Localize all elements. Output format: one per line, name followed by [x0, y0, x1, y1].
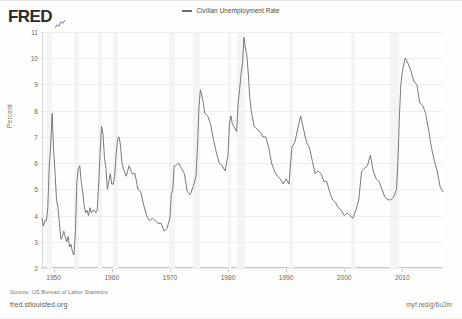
y-tick-label: 9	[8, 81, 38, 88]
y-axis-title: Percent	[6, 104, 13, 128]
x-tick-label: 1970	[163, 274, 178, 281]
series-unemployment-rate	[42, 32, 443, 268]
series-line	[42, 37, 443, 255]
x-tick-label: 2010	[395, 274, 410, 281]
legend-swatch-unemployment	[182, 10, 192, 12]
source-note: Source: US Bureau of Labor Statistics	[10, 289, 108, 295]
x-tick-label: 1990	[279, 274, 294, 281]
plot-area	[42, 32, 443, 268]
x-tick-label: 1980	[221, 274, 236, 281]
x-tick-label: 2000	[337, 274, 352, 281]
y-tick-label: 4	[8, 212, 38, 219]
x-tick-mark	[228, 269, 229, 272]
fred-site-url[interactable]: fred.stlouisfed.org	[10, 301, 68, 308]
x-tick-mark	[286, 269, 287, 272]
y-axis-ticks: 234567891011	[4, 32, 38, 268]
y-tick-label: 5	[8, 186, 38, 193]
x-tick-label: 1950	[46, 274, 61, 281]
top-hairline	[0, 0, 462, 1]
legend-label-unemployment: Civilian Unemployment Rate	[196, 7, 279, 14]
y-tick-label: 6	[8, 160, 38, 167]
x-tick-mark	[170, 269, 171, 272]
x-tick-mark	[54, 269, 55, 272]
mini-line-chart-icon	[55, 15, 66, 24]
y-tick-label: 10	[8, 55, 38, 62]
y-tick-label: 3	[8, 238, 38, 245]
chart-legend: Civilian Unemployment Rate	[0, 7, 462, 14]
y-tick-label: 7	[8, 133, 38, 140]
x-tick-mark	[402, 269, 403, 272]
y-tick-label: 2	[8, 265, 38, 272]
x-tick-mark	[112, 269, 113, 272]
short-permalink-url[interactable]: myf.red/g/6u2m	[406, 301, 452, 308]
x-tick-mark	[344, 269, 345, 272]
fred-chart-screenshot: FRED Civilian Unemployment Rate 23456789…	[0, 0, 462, 319]
x-axis-ticks: 1950196019701980199020002010	[42, 269, 443, 285]
x-tick-label: 1960	[104, 274, 119, 281]
y-tick-label: 11	[8, 29, 38, 36]
